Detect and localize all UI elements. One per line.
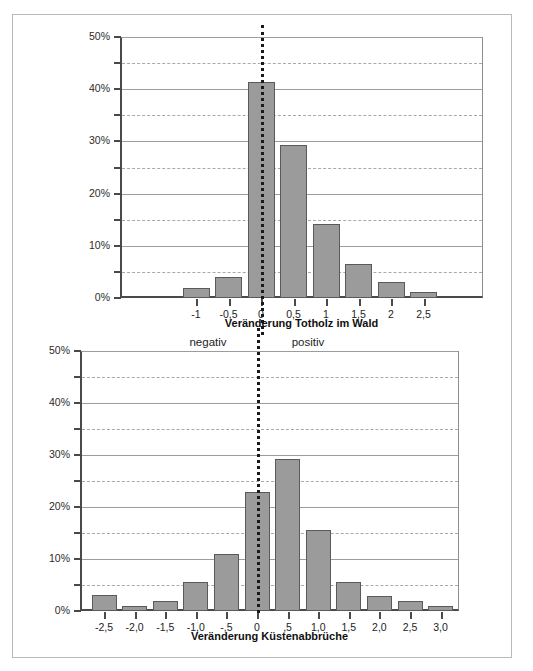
bar: [214, 554, 239, 611]
zero-reference-line-kuestenabbrueche: [257, 328, 260, 613]
bar: [378, 282, 405, 298]
x-tick: [379, 612, 381, 619]
x-tick: [257, 612, 259, 619]
bar: [336, 582, 361, 611]
y-tick-minor: [114, 271, 121, 273]
y-tick-label: 10%: [28, 553, 70, 564]
y-tick-label: 50%: [68, 31, 110, 42]
chart-totholz: 0%10%20%30%40%50% -1-0,500,511,522,5 Ver…: [13, 15, 513, 345]
bar: [398, 601, 423, 611]
y-tick-major: [74, 558, 81, 560]
gridline-minor: [82, 377, 458, 378]
bar: [410, 292, 437, 298]
gridline-minor: [82, 481, 458, 482]
gridline-minor: [82, 429, 458, 430]
gridline-minor: [122, 115, 482, 116]
y-tick-minor: [114, 167, 121, 169]
x-tick: [441, 612, 443, 619]
y-tick-major: [114, 88, 121, 90]
y-tick-minor: [114, 62, 121, 64]
bar: [153, 601, 178, 611]
x-tick: [318, 612, 320, 619]
y-tick-minor: [74, 480, 81, 482]
x-tick: [424, 299, 426, 306]
y-tick-label: 50%: [28, 345, 70, 356]
x-tick: [229, 299, 231, 306]
bar: [122, 606, 147, 611]
bar: [280, 145, 307, 298]
gridline-minor: [122, 63, 482, 64]
gridline-major: [122, 89, 482, 90]
y-tick-minor: [74, 532, 81, 534]
bar: [428, 606, 453, 611]
y-tick-label: 20%: [28, 501, 70, 512]
y-tick-major: [74, 402, 81, 404]
y-tick-major: [74, 454, 81, 456]
x-tick: [196, 612, 198, 619]
y-tick-label: 30%: [28, 449, 70, 460]
bar: [183, 582, 208, 611]
gridline-major: [82, 455, 458, 456]
y-tick-major: [74, 350, 81, 352]
gridline-major: [82, 559, 458, 560]
x-tick: [104, 612, 106, 619]
x-tick: [196, 299, 198, 306]
y-tick-major: [114, 245, 121, 247]
y-tick-minor: [74, 428, 81, 430]
gridline-major: [122, 37, 482, 38]
y-tick-minor: [114, 219, 121, 221]
y-tick-label: 20%: [68, 188, 110, 199]
x-tick: [391, 299, 393, 306]
plot-area-kuestenabbrueche: [80, 351, 459, 611]
bar: [313, 224, 340, 298]
x-tick: [294, 299, 296, 306]
y-tick-minor: [74, 376, 81, 378]
y-tick-label: 10%: [68, 240, 110, 251]
annotation-positiv: positiv: [263, 337, 353, 349]
y-tick-major: [74, 506, 81, 508]
x-tick: [359, 299, 361, 306]
y-tick-label: 30%: [68, 135, 110, 146]
annotation-negativ: negativ: [163, 337, 253, 349]
bar: [367, 596, 392, 611]
zero-reference-line-totholz: [261, 25, 264, 335]
y-tick-label: 40%: [28, 397, 70, 408]
x-tick: [288, 612, 290, 619]
y-tick-minor: [114, 114, 121, 116]
gridline-major: [82, 351, 458, 352]
x-tick: [326, 299, 328, 306]
x-tick: [135, 612, 137, 619]
bar: [215, 277, 242, 298]
chart-kuestenabbrueche: 0%10%20%30%40%50% -2,5-2,0-1,5-1,0-,50,5…: [13, 350, 513, 650]
bar: [306, 530, 331, 611]
gridline-major: [122, 141, 482, 142]
x-axis-title-kuestenabbrueche: Veränderung Küstenabbrüche: [80, 631, 459, 642]
y-tick-label: 0%: [68, 292, 110, 303]
bar: [275, 459, 300, 611]
x-axis-title-totholz: Veränderung Totholz im Wald: [120, 318, 483, 329]
x-tick: [226, 612, 228, 619]
gridline-minor: [82, 533, 458, 534]
gridline-minor: [82, 585, 458, 586]
gridline-major: [82, 507, 458, 508]
y-tick-major: [114, 36, 121, 38]
y-tick-label: 0%: [28, 605, 70, 616]
y-tick-minor: [74, 584, 81, 586]
gridline-major: [82, 403, 458, 404]
y-tick-major: [114, 193, 121, 195]
figure-frame: 0%10%20%30%40%50% -1-0,500,511,522,5 Ver…: [12, 14, 512, 658]
bar: [183, 288, 210, 298]
y-tick-major: [74, 610, 81, 612]
bar: [92, 595, 117, 611]
y-tick-label: 40%: [68, 83, 110, 94]
bar: [345, 264, 372, 298]
x-tick: [349, 612, 351, 619]
y-tick-major: [114, 297, 121, 299]
y-tick-major: [114, 140, 121, 142]
x-tick: [165, 612, 167, 619]
x-tick: [410, 612, 412, 619]
